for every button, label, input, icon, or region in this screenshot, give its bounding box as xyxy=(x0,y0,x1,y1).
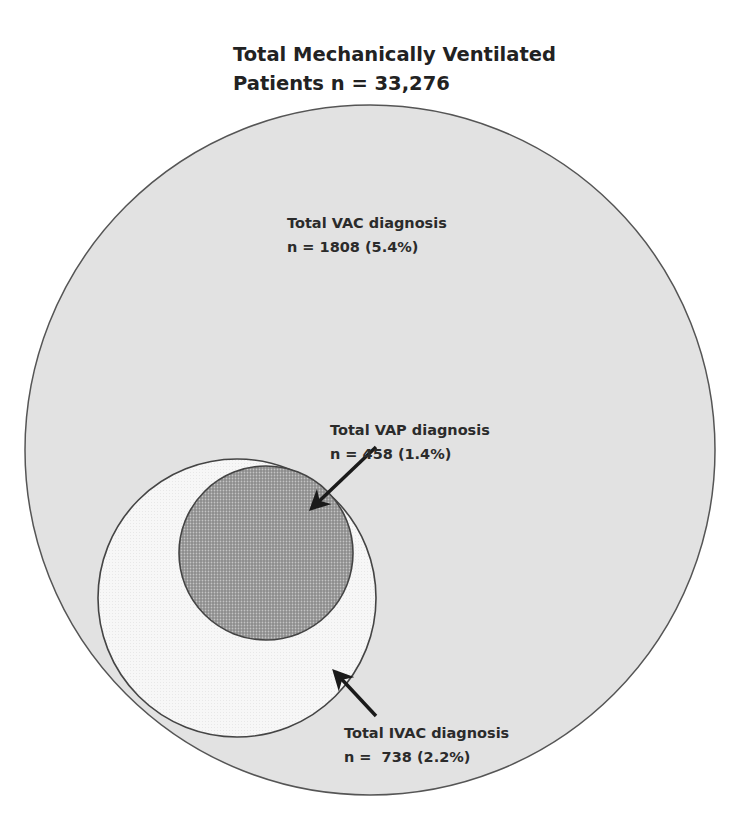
ivac-label-name: Total IVAC diagnosis xyxy=(344,721,509,745)
diagram-title: Total Mechanically Ventilated Patients n… xyxy=(233,40,556,98)
vap-label: Total VAP diagnosis n = 458 (1.4%) xyxy=(330,418,490,466)
vac-label: Total VAC diagnosis n = 1808 (5.4%) xyxy=(287,211,447,259)
ivac-label: Total IVAC diagnosis n = 738 (2.2%) xyxy=(344,721,509,769)
title-line-2: Patients n = 33,276 xyxy=(233,69,556,98)
vap-label-name: Total VAP diagnosis xyxy=(330,418,490,442)
title-line-1: Total Mechanically Ventilated xyxy=(233,40,556,69)
vap-label-value: n = 458 (1.4%) xyxy=(330,442,490,466)
ivac-label-value: n = 738 (2.2%) xyxy=(344,745,509,769)
venn-diagram xyxy=(0,0,748,820)
vac-label-name: Total VAC diagnosis xyxy=(287,211,447,235)
vac-label-value: n = 1808 (5.4%) xyxy=(287,235,447,259)
